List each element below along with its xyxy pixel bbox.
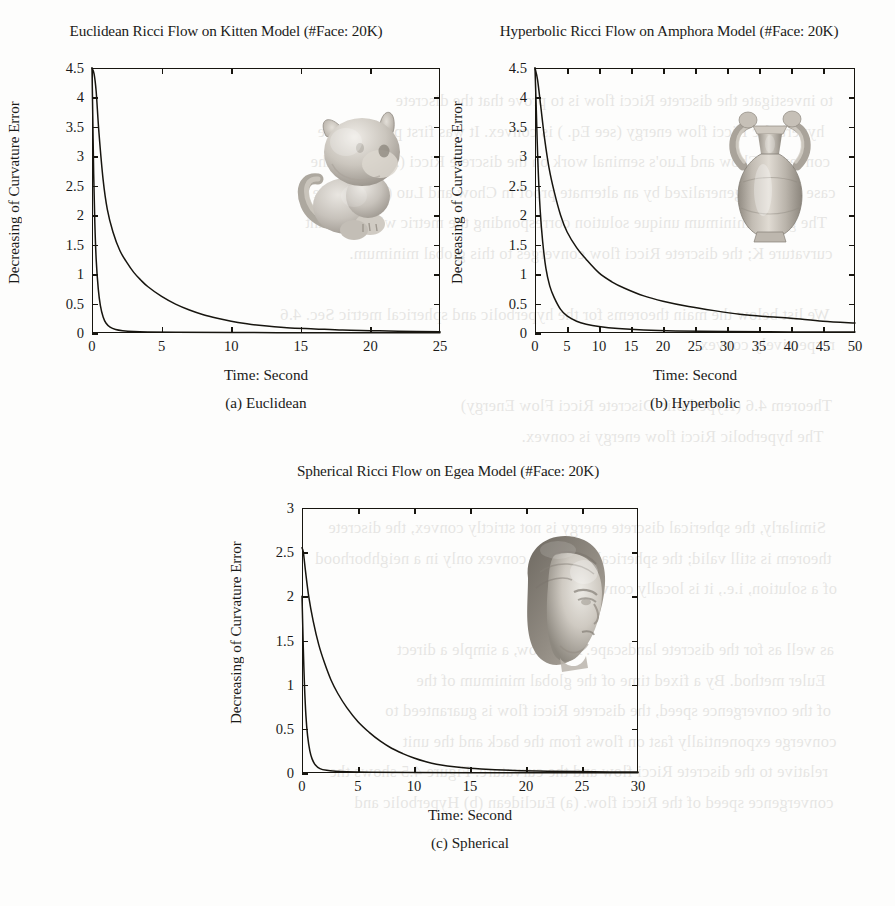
xtick-label: 35: [752, 338, 767, 355]
xtick-mark: [567, 327, 569, 333]
plot-area-spherical: [302, 508, 638, 773]
xtick-mark: [582, 767, 584, 773]
chart-spherical: Spherical Ricci Flow on Egea Model (#Fac…: [222, 462, 674, 872]
xtick-mark: [414, 767, 416, 773]
ytick-label: 2: [0, 207, 84, 224]
chart-title-hyperbolic: Hyperbolic Ricci Flow on Amphora Model (…: [447, 22, 891, 40]
xtick-mark: [162, 327, 164, 333]
ytick-mark: [302, 596, 308, 598]
xtick-mark: [695, 327, 697, 333]
ytick-label: 0: [0, 325, 84, 342]
xtick-label: 30: [720, 338, 735, 355]
xtick-label: 15: [294, 338, 309, 355]
xtick-mark: [582, 508, 584, 514]
ytick-label: 4: [0, 89, 84, 106]
ytick-mark: [92, 156, 98, 158]
ytick-label: 1: [443, 266, 527, 283]
xtick-label: 45: [816, 338, 831, 355]
ytick-label: 2.5: [0, 177, 84, 194]
ytick-label: 0.5: [443, 295, 527, 312]
xtick-label: 20: [519, 778, 534, 795]
ytick-label: 3.5: [443, 118, 527, 135]
ytick-label: 0: [443, 325, 527, 342]
ytick-mark: [535, 304, 541, 306]
ytick-label: 1.5: [443, 236, 527, 253]
xtick-label: 15: [463, 778, 478, 795]
ytick-mark: [535, 245, 541, 247]
chart-title-spherical: Spherical Ricci Flow on Egea Model (#Fac…: [236, 462, 660, 480]
ytick-mark: [302, 641, 308, 643]
xtick-mark: [231, 327, 233, 333]
ytick-mark: [434, 186, 440, 188]
xtick-label: 10: [592, 338, 607, 355]
xtick-mark: [231, 68, 233, 74]
xtick-mark: [631, 68, 633, 74]
xtick-mark: [526, 767, 528, 773]
xtick-mark: [301, 327, 303, 333]
ytick-mark: [302, 685, 308, 687]
ytick-label: 2.5: [222, 544, 294, 561]
ytick-mark: [849, 186, 855, 188]
ytick-label: 3: [443, 148, 527, 165]
xtick-label: 5: [158, 338, 165, 355]
xtick-mark: [631, 327, 633, 333]
figure-ricci-flow-convergence: Euclidean Ricci Flow on Kitten Model (#F…: [0, 0, 895, 906]
chart-caption-euclidean: (a) Euclidean: [92, 394, 440, 412]
xtick-label: 15: [624, 338, 639, 355]
ytick-mark: [302, 773, 308, 775]
ytick-label: 4.5: [443, 60, 527, 77]
model-thumbnail-kitten: [288, 84, 420, 252]
xtick-label: 40: [784, 338, 799, 355]
xtick-mark: [599, 68, 601, 74]
xtick-mark: [599, 327, 601, 333]
ytick-mark: [632, 729, 638, 731]
ytick-mark: [535, 215, 541, 217]
x-axis-label-hyperbolic: Time: Second: [535, 366, 855, 384]
chart-euclidean: Euclidean Ricci Flow on Kitten Model (#F…: [0, 22, 452, 422]
ytick-mark: [632, 596, 638, 598]
ytick-mark: [849, 274, 855, 276]
xtick-label: 0: [531, 338, 538, 355]
model-thumbnail-egea: [498, 520, 622, 690]
ytick-label: 2.5: [443, 177, 527, 194]
ytick-mark: [92, 97, 98, 99]
ytick-mark: [92, 127, 98, 129]
ytick-mark: [92, 304, 98, 306]
ytick-label: 4: [443, 89, 527, 106]
ytick-mark: [535, 186, 541, 188]
xtick-label: 50: [848, 338, 863, 355]
ytick-label: 3.5: [0, 118, 84, 135]
plot-area-hyperbolic: [535, 68, 855, 333]
xtick-mark: [370, 68, 372, 74]
xtick-label: 0: [298, 778, 305, 795]
xtick-label: 30: [631, 778, 646, 795]
xtick-mark: [470, 508, 472, 514]
xtick-mark: [791, 327, 793, 333]
xtick-mark: [727, 327, 729, 333]
ytick-mark: [434, 274, 440, 276]
ytick-label: 3: [222, 500, 294, 517]
ytick-mark: [535, 97, 541, 99]
ytick-mark: [434, 245, 440, 247]
xtick-mark: [162, 68, 164, 74]
ytick-mark: [434, 156, 440, 158]
xtick-mark: [759, 327, 761, 333]
chart-caption-spherical: (c) Spherical: [302, 834, 638, 852]
ytick-mark: [535, 274, 541, 276]
ytick-mark: [849, 127, 855, 129]
ytick-mark: [92, 274, 98, 276]
xtick-mark: [526, 508, 528, 514]
ytick-mark: [434, 304, 440, 306]
ytick-mark: [302, 729, 308, 731]
ytick-mark: [535, 333, 541, 335]
ytick-mark: [849, 245, 855, 247]
xtick-mark: [358, 508, 360, 514]
ytick-mark: [302, 552, 308, 554]
xtick-mark: [414, 508, 416, 514]
xtick-mark: [823, 68, 825, 74]
ytick-mark: [434, 215, 440, 217]
xtick-label: 5: [563, 338, 570, 355]
ytick-mark: [849, 156, 855, 158]
ytick-label: 0.5: [222, 720, 294, 737]
xtick-mark: [470, 767, 472, 773]
